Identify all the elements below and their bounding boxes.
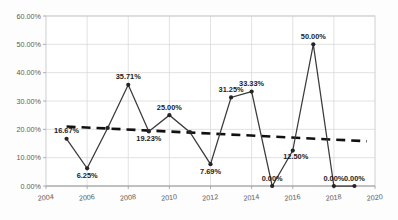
data-point-marker: [311, 42, 315, 46]
data-point-label: 33.33%: [239, 79, 264, 88]
y-axis-tick-labels: 0.00%10.00%20.00%30.00%40.00%50.00%60.00…: [17, 12, 46, 191]
x-axis-tick-label: 2016: [284, 192, 301, 203]
x-axis-tick-label: 2018: [325, 192, 342, 203]
data-point-marker: [64, 137, 68, 141]
data-point-marker: [229, 95, 233, 99]
data-point-marker: [85, 166, 89, 170]
data-point-marker: [332, 184, 336, 188]
line-chart: 0.00%10.00%20.00%30.00%40.00%50.00%60.00…: [0, 0, 398, 220]
chart-container: 0.00%10.00%20.00%30.00%40.00%50.00%60.00…: [0, 0, 398, 220]
data-point-label: 19.23%: [136, 134, 161, 143]
x-axis-tick-label: 2012: [202, 192, 219, 203]
y-axis-tick-label: 30.00%: [17, 97, 42, 106]
x-axis-tick-labels: 200420062008201020122014201620182020: [37, 186, 383, 203]
data-point-label: 0.00%: [344, 174, 365, 183]
data-point-label: 6.25%: [77, 171, 98, 180]
x-axis-tick-label: 2008: [120, 192, 137, 203]
x-axis-tick-label: 2006: [78, 192, 95, 203]
y-axis-tick-label: 10.00%: [17, 153, 42, 162]
data-point-marker: [250, 89, 254, 93]
data-point-label: 0.00%: [323, 174, 344, 183]
y-axis-tick-label: 40.00%: [17, 68, 42, 77]
data-point-marker: [126, 83, 130, 87]
data-point-label: 0.00%: [262, 174, 283, 183]
data-point-label: 7.69%: [200, 167, 221, 176]
x-axis-tick-label: 2010: [161, 192, 178, 203]
x-axis-tick-label: 2004: [37, 192, 54, 203]
data-point-marker: [208, 162, 212, 166]
data-point-label: 12.50%: [283, 152, 308, 161]
y-axis-tick-label: 20.00%: [17, 125, 42, 134]
data-point-marker: [188, 130, 192, 134]
x-axis-tick-label: 2020: [366, 192, 383, 203]
data-point-label: 16.67%: [54, 126, 79, 135]
data-point-marker: [106, 126, 110, 130]
data-point-label: 50.00%: [301, 32, 326, 41]
y-axis-tick-label: 60.00%: [17, 12, 42, 21]
x-axis-tick-label: 2014: [243, 192, 260, 203]
y-axis-tick-label: 0.00%: [21, 182, 42, 191]
data-point-label: 35.71%: [116, 72, 141, 81]
data-point-marker: [352, 184, 356, 188]
data-point-marker: [147, 129, 151, 133]
data-point-marker: [270, 184, 274, 188]
data-point-label: 25.00%: [157, 103, 182, 112]
y-axis-tick-label: 50.00%: [17, 40, 42, 49]
data-point-marker: [167, 113, 171, 117]
